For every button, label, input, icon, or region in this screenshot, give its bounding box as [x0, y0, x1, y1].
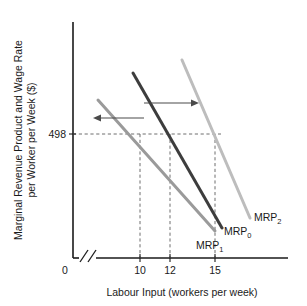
x-tick-label-15: 15	[209, 264, 221, 276]
x-axis-title: Labour Input (workers per week)	[106, 286, 257, 298]
shift-left-arrow-icon	[93, 115, 144, 122]
x-tick-label-10: 10	[134, 264, 146, 276]
y-axis-title-line2: per Worker per Week ($)	[25, 82, 37, 197]
y-tick-label-498: 498	[48, 128, 66, 140]
series-line-mrp2	[182, 60, 250, 218]
series-label-mrp0: MRP0	[224, 225, 252, 240]
mrp-labour-demand-chart: 498 0 10 12 15 Labour Input (workers per…	[0, 0, 307, 306]
y-axis-title-line1: Marginal Revenue Product and Wage Rate	[12, 40, 24, 240]
series-label-mrp1-base: MRP	[196, 239, 219, 251]
series-label-mrp2-sub: 2	[277, 217, 281, 226]
series-label-mrp1: MRP1	[196, 239, 224, 254]
series-line-mrp1	[98, 100, 215, 231]
x-tick-label-12: 12	[164, 264, 176, 276]
chart-container: 498 0 10 12 15 Labour Input (workers per…	[0, 0, 307, 306]
series-label-mrp2-base: MRP	[254, 211, 277, 223]
axis-break-icon	[80, 250, 96, 262]
series-label-mrp0-sub: 0	[247, 231, 251, 240]
x-origin-label: 0	[62, 264, 68, 276]
series-label-mrp2: MRP2	[254, 211, 282, 226]
series-label-mrp1-sub: 1	[219, 245, 223, 254]
series-line-mrp0	[133, 73, 222, 228]
series-label-mrp0-base: MRP	[224, 225, 247, 237]
